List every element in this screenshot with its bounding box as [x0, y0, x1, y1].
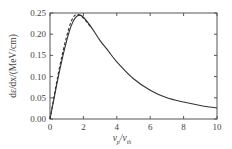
y-tick-label: 0.10 [30, 72, 46, 82]
y-tick-label: 0.05 [30, 93, 46, 103]
y-tick-label: 0.00 [30, 114, 46, 124]
solid-curve [50, 15, 217, 119]
x-tick-label: 8 [181, 122, 186, 132]
y-tick-label: 0.25 [30, 8, 46, 18]
dashed-curve [50, 14, 92, 119]
y-axis-label: dε/dx/(MeV/cm) [8, 34, 18, 98]
x-tick-label: 4 [115, 122, 120, 132]
x-tick-label: 6 [148, 122, 153, 132]
y-tick-label: 0.15 [30, 50, 46, 60]
x-label-sub-th: th [127, 139, 132, 145]
x-axis-label: vp/vth [113, 133, 132, 145]
x-tick-label: 2 [81, 122, 86, 132]
plot-frame [50, 13, 217, 119]
y-tick-label: 0.20 [30, 29, 46, 39]
stopping-power-chart: 02468100.000.050.100.150.200.25 [0, 0, 232, 149]
x-tick-label: 0 [48, 122, 53, 132]
x-tick-label: 10 [213, 122, 223, 132]
